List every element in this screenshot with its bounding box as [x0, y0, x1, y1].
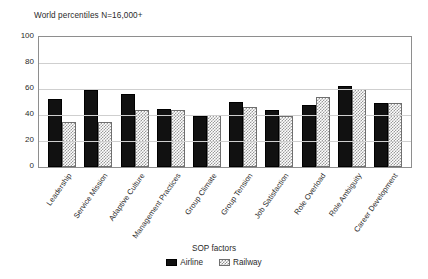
bar-group: [116, 37, 152, 167]
bar-railway[interactable]: [135, 110, 149, 167]
x-axis-title: SOP factors: [0, 244, 428, 253]
bar-airline[interactable]: [121, 94, 135, 167]
bar-group: [44, 37, 80, 167]
y-axis-tick-label: 60: [25, 84, 34, 92]
chart-container: World percentiles N=16,000+ 100806040200…: [0, 0, 428, 279]
x-axis-category-labels: LeadershipService MissionAdaptive Cultur…: [38, 170, 412, 240]
legend-swatch-airline: [166, 259, 177, 266]
plot-area: [38, 36, 412, 168]
bar-group: [334, 37, 370, 167]
legend-label: Railway: [233, 258, 262, 267]
x-axis-tick-label: Adaptive Culture: [107, 172, 146, 223]
gridline: [39, 115, 411, 116]
bar-airline[interactable]: [229, 102, 243, 167]
legend-item-airline[interactable]: Airline: [166, 258, 203, 267]
bar-airline[interactable]: [374, 103, 388, 167]
gridline: [39, 141, 411, 142]
bar-group: [261, 37, 297, 167]
bar-airline[interactable]: [302, 105, 316, 167]
chart-legend: AirlineRailway: [0, 258, 428, 267]
bar-airline[interactable]: [84, 90, 98, 167]
x-axis-tick-label: Role Overload: [293, 172, 327, 216]
legend-item-railway[interactable]: Railway: [219, 258, 262, 267]
bar-group: [189, 37, 225, 167]
x-axis-tick-label: Service Mission: [73, 172, 110, 220]
legend-swatch-railway: [219, 259, 230, 266]
bar-group: [80, 37, 116, 167]
y-axis-tick-label: 20: [25, 136, 34, 144]
bar-group: [370, 37, 406, 167]
bar-railway[interactable]: [98, 122, 112, 168]
y-axis-tick-label: 80: [25, 58, 34, 66]
bar-railway[interactable]: [171, 110, 185, 167]
gridline: [39, 63, 411, 64]
y-axis-tick-label: 100: [21, 32, 34, 40]
y-axis-tick-label: 0: [30, 162, 34, 170]
bar-airline[interactable]: [338, 86, 352, 167]
gridline: [39, 89, 411, 90]
bar-railway[interactable]: [352, 89, 366, 167]
bar-group: [297, 37, 333, 167]
bar-groups: [39, 37, 411, 167]
x-axis-tick-label: Role Ambiguity: [328, 172, 364, 218]
y-axis-tick-labels: 100806040200: [0, 36, 34, 168]
chart-title: World percentiles N=16,000+: [34, 11, 143, 20]
bar-airline[interactable]: [265, 110, 279, 167]
bar-group: [225, 37, 261, 167]
bar-group: [153, 37, 189, 167]
bar-airline[interactable]: [48, 99, 62, 167]
x-axis-tick-label: Leadership: [46, 172, 74, 207]
bar-airline[interactable]: [157, 109, 171, 168]
y-axis-tick-label: 40: [25, 110, 34, 118]
bar-railway[interactable]: [62, 122, 76, 168]
x-axis-tick-label: Group Climate: [184, 172, 219, 217]
x-axis-tick-label: Group Tension: [220, 172, 255, 217]
bar-railway[interactable]: [388, 103, 402, 167]
bar-railway[interactable]: [316, 97, 330, 167]
legend-label: Airline: [180, 258, 203, 267]
x-axis-tick-label: Job Satisfaction: [254, 172, 291, 221]
bar-railway[interactable]: [243, 107, 257, 167]
